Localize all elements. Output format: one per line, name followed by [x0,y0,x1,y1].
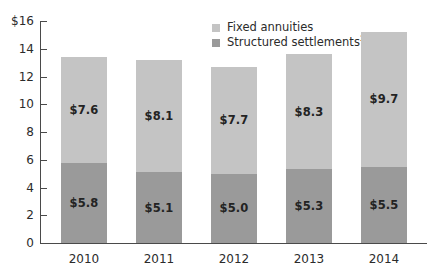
y-tick-label: 2 [26,208,34,222]
bar-value-label: $5.0 [220,201,249,215]
x-tick-label-2012: 2012 [211,243,257,266]
bar-value-label: $8.3 [295,105,324,119]
y-tick-mark [41,77,47,78]
bar-value-label: $5.5 [370,198,399,212]
bar-segment-structured-settlements-2011: $5.1 [136,172,182,243]
y-tick-mark [41,21,47,22]
bar-2014: $9.7$5.5 [361,32,407,243]
bar-value-label: $8.1 [145,109,174,123]
bar-2011: $8.1$5.1 [136,60,182,243]
y-tick-mark [41,188,47,189]
bar-segment-structured-settlements-2012: $5.0 [211,174,257,243]
y-tick-mark [41,160,47,161]
x-tick-label-2011: 2011 [136,243,182,266]
bar-segment-structured-settlements-2014: $5.5 [361,167,407,243]
bar-value-label: $7.7 [220,113,249,127]
bar-value-label: $7.6 [70,103,99,117]
y-tick-mark [41,215,47,216]
bar-value-label: $5.1 [145,201,174,215]
y-tick-label: 0 [26,236,34,250]
y-tick-mark [41,132,47,133]
bar-2010: $7.6$5.8 [61,57,107,243]
bar-value-label: $9.7 [370,92,399,106]
y-tick-label: 14 [19,42,34,56]
bar-segment-fixed-annuities-2013: $8.3 [286,54,332,169]
bar-segment-structured-settlements-2010: $5.8 [61,163,107,243]
bar-segment-fixed-annuities-2011: $8.1 [136,60,182,172]
bar-2013: $8.3$5.3 [286,54,332,243]
y-tick-mark [41,243,47,244]
y-tick-mark [41,104,47,105]
y-tick-label: 12 [19,70,34,84]
x-tick-label-2010: 2010 [61,243,107,266]
bar-segment-fixed-annuities-2010: $7.6 [61,57,107,162]
plot-area: 02468101214$16 $7.6$5.82010$8.1$5.12011$… [41,21,427,243]
bar-segment-fixed-annuities-2014: $9.7 [361,32,407,167]
x-tick-label-2013: 2013 [286,243,332,266]
bar-value-label: $5.8 [70,196,99,210]
y-tick-label: 6 [26,153,34,167]
y-tick-mark [41,49,47,50]
bar-segment-fixed-annuities-2012: $7.7 [211,67,257,174]
stacked-bar-chart: Fixed annuities Structured settlements2 … [0,0,442,277]
bar-segment-structured-settlements-2013: $5.3 [286,169,332,243]
y-tick-label: $16 [11,14,34,28]
x-tick-label-2014: 2014 [361,243,407,266]
y-tick-label: 8 [26,125,34,139]
y-tick-label: 4 [26,181,34,195]
bar-value-label: $5.3 [295,199,324,213]
bar-2012: $7.7$5.0 [211,67,257,243]
y-tick-label: 10 [19,97,34,111]
